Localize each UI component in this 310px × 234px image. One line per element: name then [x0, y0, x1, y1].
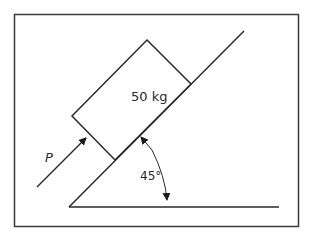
diagram-frame: [15, 15, 299, 227]
block-mass-label: 50 kg: [131, 89, 167, 104]
incline-diagram: 50 kg P 45°: [0, 0, 310, 234]
angle-label: 45°: [140, 169, 161, 183]
force-p-label: P: [45, 150, 53, 165]
angle-arc-start-arrow: [141, 137, 152, 150]
